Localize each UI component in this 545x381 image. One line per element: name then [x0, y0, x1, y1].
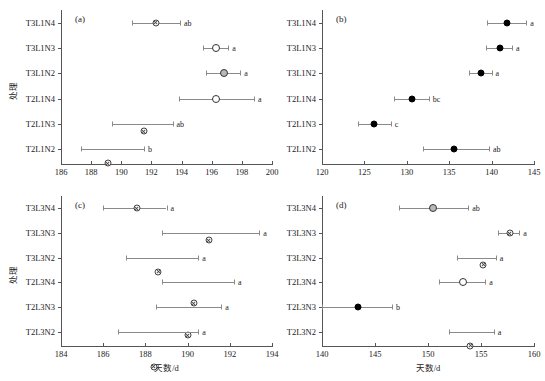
x-tick-label: 155 [475, 349, 488, 359]
error-cap-high [485, 280, 486, 285]
y-tick [319, 282, 323, 283]
error-cap-low [322, 305, 323, 310]
y-category-label: T3L3N2 [270, 253, 316, 263]
significance-letter: ab [472, 204, 480, 213]
panel-d: (d)140145150155160T3L3N4T3L3N3T3L3N2T2L3… [0, 0, 545, 381]
x-tick [322, 343, 323, 347]
x-tick [534, 343, 535, 347]
error-cap-high [468, 206, 469, 211]
panel-tag: (d) [336, 200, 347, 210]
error-cap-high [496, 255, 497, 260]
significance-letter: a [523, 229, 527, 238]
error-cap-low [457, 255, 458, 260]
error-cap-low [439, 280, 440, 285]
error-cap-high [494, 329, 495, 334]
x-tick-label: 145 [369, 349, 382, 359]
x-tick-label: 160 [528, 349, 541, 359]
data-point-marker-gray [429, 204, 437, 212]
error-cap-low [399, 206, 400, 211]
x-tick [481, 343, 482, 347]
x-axis-title: 天数/d [416, 361, 441, 373]
data-point-marker-filled [355, 304, 362, 311]
y-axis-line [322, 196, 323, 346]
y-tick [319, 208, 323, 209]
y-tick [319, 332, 323, 333]
figure-root: (a)186188190192194196198200T3L1N4T3L1N3T… [0, 0, 545, 381]
error-cap-high [392, 305, 393, 310]
data-point-marker-open [459, 278, 467, 286]
y-tick [319, 233, 323, 234]
x-tick-label: 140 [316, 349, 329, 359]
significance-letter: a [500, 253, 504, 262]
error-cap-low [498, 231, 499, 236]
y-category-label: T2L3N3 [270, 302, 316, 312]
x-tick-label: 150 [422, 349, 435, 359]
significance-letter: b [396, 303, 400, 312]
y-category-label: T2L3N2 [270, 327, 316, 337]
y-category-label: T3L3N4 [270, 203, 316, 213]
error-cap-high [519, 231, 520, 236]
significance-letter: a [498, 327, 502, 336]
error-cap-low [449, 329, 450, 334]
error-bar [449, 332, 494, 333]
data-point-marker-cross [480, 261, 487, 268]
data-point-marker-cross [467, 342, 474, 349]
x-tick [428, 343, 429, 347]
y-category-label: T2L3N4 [270, 277, 316, 287]
x-tick [375, 343, 376, 347]
y-tick [319, 258, 323, 259]
error-bar [457, 258, 496, 259]
y-category-label: T3L3N3 [270, 228, 316, 238]
data-point-marker-cross [506, 230, 513, 237]
significance-letter: a [489, 278, 493, 287]
